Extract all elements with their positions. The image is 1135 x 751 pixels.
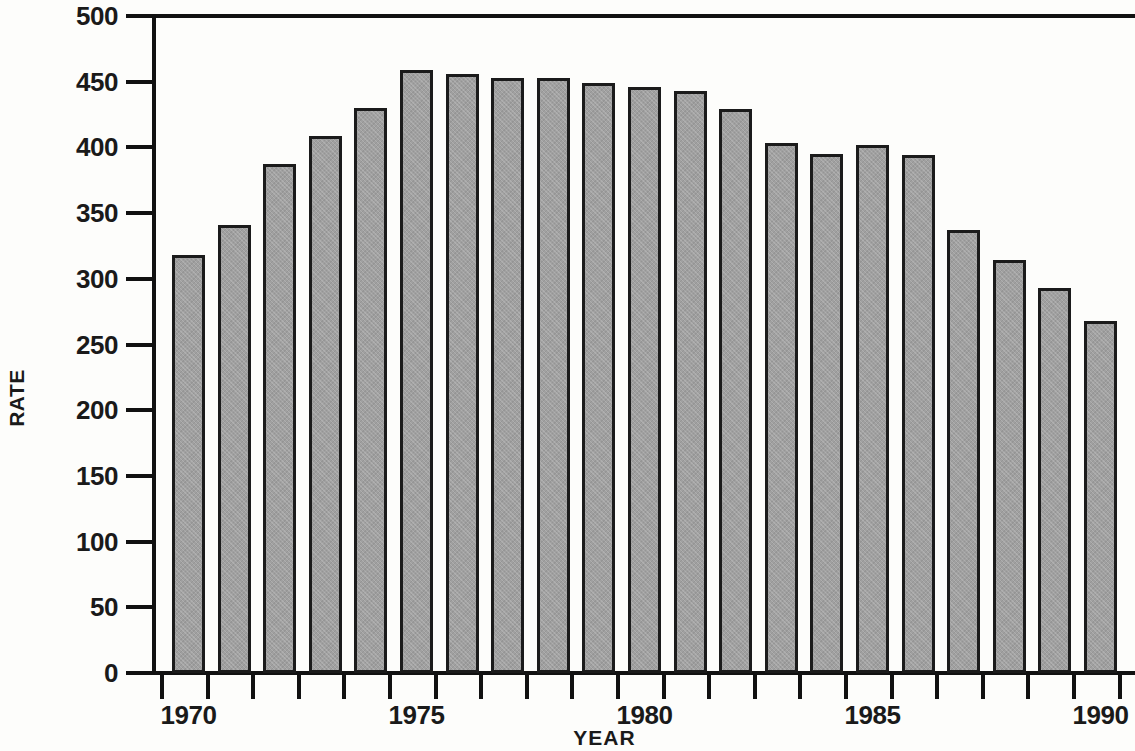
bar: [218, 225, 251, 673]
x-axis-title: YEAR: [0, 726, 1135, 750]
x-axis-tick-mark: [434, 675, 438, 699]
x-axis-tick-mark: [160, 675, 164, 699]
bar: [628, 87, 661, 673]
bar: [810, 154, 843, 673]
x-axis-tick-mark: [570, 675, 574, 699]
bar: [765, 143, 798, 673]
bar: [719, 109, 752, 673]
bar: [491, 78, 524, 673]
bar-series: [0, 0, 1135, 751]
bar: [582, 83, 615, 673]
x-axis-tick-mark: [342, 675, 346, 699]
x-axis-tick-mark: [662, 675, 666, 699]
x-axis-tick-mark: [935, 675, 939, 699]
x-axis-tick-mark: [981, 675, 985, 699]
bar: [856, 145, 889, 673]
x-axis-tick-mark: [1118, 675, 1122, 699]
bar: [354, 108, 387, 673]
bar: [263, 164, 296, 673]
x-axis-tick-marks: [0, 675, 1135, 701]
x-axis-tick-mark: [297, 675, 301, 699]
bar: [400, 70, 433, 673]
bar: [309, 136, 342, 673]
bar: [446, 74, 479, 673]
x-axis-tick-mark: [844, 675, 848, 699]
x-axis-tick-mark: [753, 675, 757, 699]
x-axis-tick-mark: [1026, 675, 1030, 699]
x-axis-tick-mark: [479, 675, 483, 699]
x-axis-title-text: YEAR: [573, 726, 635, 749]
bar: [1038, 288, 1071, 673]
bar: [993, 260, 1026, 673]
x-axis-tick-mark: [707, 675, 711, 699]
x-axis-tick-mark: [388, 675, 392, 699]
bar: [902, 155, 935, 673]
x-axis-tick-mark: [1072, 675, 1076, 699]
bar: [947, 230, 980, 673]
x-axis-tick-mark: [798, 675, 802, 699]
bar-chart-figure: RATE 050100150200250300350400450500 1970…: [0, 0, 1135, 751]
x-axis-tick-mark: [616, 675, 620, 699]
x-axis-tick-mark: [890, 675, 894, 699]
bar: [1084, 321, 1117, 673]
bar: [172, 255, 205, 673]
bar: [674, 91, 707, 673]
x-axis-tick-mark: [525, 675, 529, 699]
bar: [537, 78, 570, 673]
x-axis-tick-mark: [206, 675, 210, 699]
x-axis-tick-mark: [251, 675, 255, 699]
